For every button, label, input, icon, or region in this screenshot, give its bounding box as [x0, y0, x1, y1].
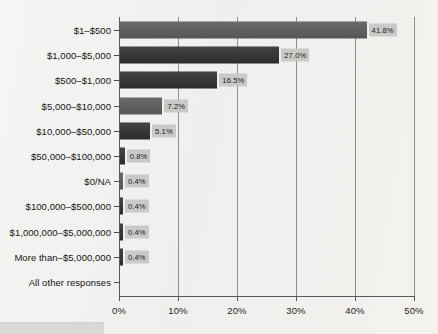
bar-value-label: 0.8% [127, 150, 151, 163]
bar [120, 72, 217, 89]
bar [120, 248, 123, 265]
category-label: $5,000–$10,000 [42, 100, 111, 111]
y-tick [114, 156, 119, 157]
bar [120, 122, 150, 139]
y-tick [114, 106, 119, 107]
x-tick-label: 50% [404, 305, 423, 316]
category-label: $100,000–$500,000 [26, 201, 111, 212]
x-tick-50% [414, 296, 415, 301]
x-tick-20% [237, 296, 238, 301]
bar [120, 47, 279, 64]
x-tick-label: 0% [112, 305, 126, 316]
bar [120, 223, 123, 240]
x-tick-30% [296, 296, 297, 301]
x-tick-0% [119, 296, 120, 301]
x-tick-10% [178, 296, 179, 301]
bar-value-label: 41.8% [369, 24, 397, 37]
category-label: $50,000–$100,000 [31, 151, 111, 162]
y-tick [114, 282, 119, 283]
bar-value-label: 5.1% [152, 124, 176, 137]
y-tick [114, 181, 119, 182]
x-axis [119, 296, 415, 297]
category-label: $500–$1,000 [55, 75, 111, 86]
y-tick [114, 257, 119, 258]
bar-value-label: 7.2% [164, 99, 188, 112]
category-label: More than–$5,000,000 [14, 251, 111, 262]
y-tick [114, 30, 119, 31]
bar-value-label: 16.5% [219, 74, 247, 87]
bar-value-label: 0.4% [125, 175, 149, 188]
bar [120, 97, 162, 114]
category-label: $1,000,000–$5,000,000 [10, 226, 111, 237]
bar [120, 148, 125, 165]
bar [120, 22, 367, 39]
category-label: $1,000–$5,000 [47, 50, 111, 61]
bar-value-label: 0.4% [125, 200, 149, 213]
bar-value-label: 0.4% [125, 250, 149, 263]
x-tick-40% [355, 296, 356, 301]
category-label: $1–$500 [74, 25, 111, 36]
y-tick [114, 80, 119, 81]
bar-chart: 0%10%20%30%40%50% $1–$50041.8%$1,000–$5,… [0, 0, 438, 334]
plot-area: 0%10%20%30%40%50% $1–$50041.8%$1,000–$5,… [119, 17, 414, 296]
y-tick [114, 206, 119, 207]
y-tick [114, 131, 119, 132]
category-label: $0/NA [84, 176, 111, 187]
x-tick-label: 10% [168, 305, 187, 316]
x-tick-label: 40% [345, 305, 364, 316]
category-label: All other responses [29, 277, 111, 288]
bar-value-label: 0.4% [125, 225, 149, 238]
x-tick-label: 30% [286, 305, 305, 316]
category-label: $10,000–$50,000 [36, 125, 111, 136]
bottom-ui-strip [0, 322, 104, 334]
y-tick [114, 55, 119, 56]
bar-value-label: 27.0% [281, 49, 309, 62]
gridline-40% [355, 17, 356, 296]
bar [120, 198, 123, 215]
bar [120, 173, 123, 190]
x-tick-label: 20% [227, 305, 246, 316]
y-tick [114, 232, 119, 233]
gridline-50% [414, 17, 415, 296]
